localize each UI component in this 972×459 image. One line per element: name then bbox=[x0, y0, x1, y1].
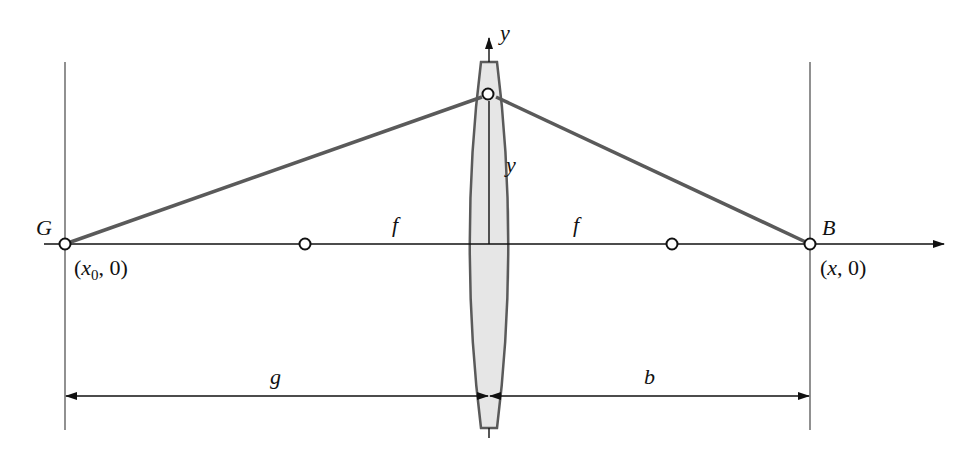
label-y-axis: y bbox=[498, 20, 510, 45]
label-g: g bbox=[270, 364, 281, 389]
label-focal-left: f bbox=[392, 212, 401, 237]
diagram-canvas: G (x0, 0) B (x, 0) y y f f g b bbox=[0, 0, 972, 459]
label-G: G bbox=[36, 215, 52, 240]
label-focal-right: f bbox=[573, 212, 582, 237]
ray-lens-to-image bbox=[496, 97, 810, 244]
label-b: b bbox=[644, 364, 655, 389]
focal-point-left bbox=[300, 239, 311, 250]
focal-point-right bbox=[667, 239, 678, 250]
label-B: B bbox=[822, 215, 835, 240]
ray-object-to-lens bbox=[65, 97, 482, 244]
label-object-coord: (x0, 0) bbox=[74, 255, 128, 283]
label-height-y: y bbox=[504, 152, 516, 177]
label-image-coord: (x, 0) bbox=[820, 255, 866, 280]
thin-lens-diagram: G (x0, 0) B (x, 0) y y f f g b bbox=[0, 0, 972, 459]
object-point-G bbox=[60, 239, 71, 250]
lens-point bbox=[483, 89, 494, 100]
image-point-B bbox=[805, 239, 816, 250]
